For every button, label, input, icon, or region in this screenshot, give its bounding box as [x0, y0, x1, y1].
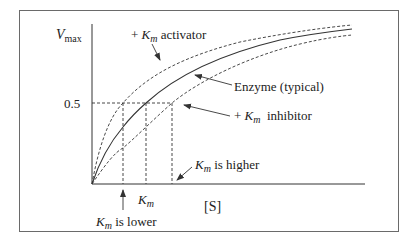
y-axis-label: Vmax	[56, 28, 82, 44]
km-higher-label: Km is higher	[195, 158, 259, 174]
activator-prefix: +	[131, 27, 142, 42]
km-lower-k: K	[96, 214, 105, 229]
km-lower-sub: m	[105, 220, 112, 231]
km-lower-text: is lower	[112, 214, 157, 229]
km-higher-sub: m	[204, 163, 211, 174]
vmax-sub: max	[65, 33, 82, 44]
km-lower-label: Km is lower	[96, 215, 157, 231]
inhibitor-label: + Km inhibitor	[234, 109, 312, 125]
inhibitor-pointer	[184, 105, 230, 116]
inhibitor-k: K	[245, 108, 254, 123]
vmax-v: V	[56, 27, 65, 42]
typical-pointer	[195, 75, 232, 85]
y-tick-label: 0.5	[64, 97, 80, 110]
activator-label: + Km activator	[131, 28, 206, 44]
activator-pointer	[152, 44, 160, 60]
km-axis-k: K	[138, 192, 147, 207]
typical-label: Enzyme (typical)	[234, 80, 324, 93]
km-axis-sub: m	[147, 198, 154, 209]
x-axis-label: [S]	[204, 200, 221, 214]
inhibitor-suffix: inhibitor	[261, 108, 312, 123]
activator-sub: m	[150, 33, 157, 44]
km-higher-text: is higher	[211, 157, 259, 172]
km-axis-label: Km	[138, 193, 154, 209]
activator-suffix: activator	[158, 27, 207, 42]
inhibitor-sub: m	[253, 114, 260, 125]
km-higher-k: K	[195, 157, 204, 172]
activator-k: K	[142, 27, 151, 42]
inhibitor-prefix: +	[234, 108, 245, 123]
km-higher-pointer	[177, 167, 192, 180]
